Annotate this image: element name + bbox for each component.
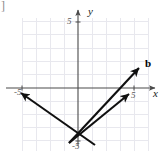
- x-tick-label-neg5: -5: [14, 88, 22, 97]
- axis-lines: [6, 10, 155, 146]
- coordinate-plane-svg: [0, 0, 164, 151]
- y-tick-label-5: 5: [67, 17, 72, 26]
- x-axis-label: x: [153, 88, 158, 99]
- x-tick-label-5: 5: [131, 91, 136, 100]
- vector-arrows: [21, 68, 139, 145]
- vector-plot-figure: ]: [0, 0, 164, 151]
- y-tick-label-neg5: -5: [72, 142, 80, 151]
- vector-b-label: b: [145, 58, 151, 69]
- y-axis-label: y: [88, 6, 93, 17]
- vector-b-arrow: [69, 68, 139, 143]
